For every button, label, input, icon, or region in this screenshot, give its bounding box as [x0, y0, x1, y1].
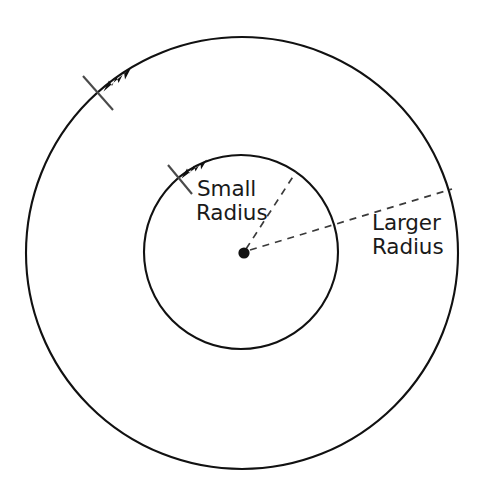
- center-point-dot: [238, 247, 249, 258]
- outer-circle-tick-icon: [83, 76, 113, 110]
- outer-circle-direction-arrow-icon: [104, 67, 132, 92]
- diagram-canvas: Small Radius Larger Radius: [0, 0, 485, 502]
- concentric-circles-diagram: Small Radius Larger Radius: [0, 0, 485, 502]
- small-radius-label-line2: Radius: [196, 200, 268, 225]
- larger-radius-label-line1: Larger: [372, 210, 441, 235]
- small-radius-label-line1: Small: [197, 176, 256, 201]
- larger-radius-label-line2: Radius: [372, 234, 444, 259]
